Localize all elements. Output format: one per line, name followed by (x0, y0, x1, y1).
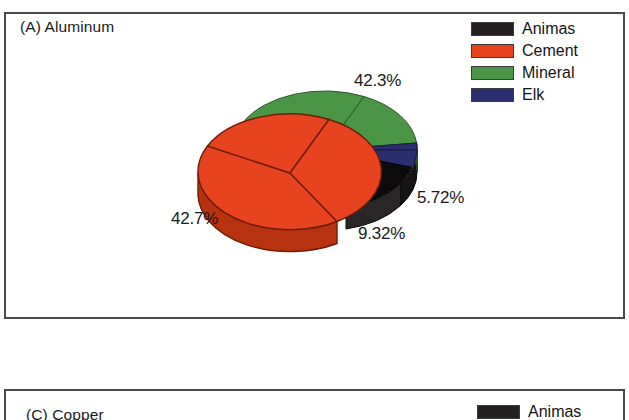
pie-value-label-mineral: 42.3% (354, 71, 401, 91)
panel-copper: (C) Copper Animas (4, 389, 625, 420)
legend-label-elk: Elk (522, 86, 544, 104)
legend-aluminum: Animas Cement Mineral Elk (471, 19, 578, 105)
pie-chart-aluminum (150, 55, 480, 270)
legend-copper: Animas (477, 402, 581, 420)
legend-swatch-animas-copper (477, 405, 520, 419)
legend-swatch-animas (471, 22, 514, 36)
legend-label-mineral: Mineral (522, 64, 574, 82)
legend-item-animas: Animas (471, 19, 578, 39)
pie-value-label-animas: 9.32% (358, 224, 405, 244)
legend-label-animas: Animas (522, 20, 575, 38)
pie-value-label-elk: 5.72% (417, 188, 464, 208)
legend-item-cement: Cement (471, 41, 578, 61)
legend-label-animas-copper: Animas (528, 403, 581, 420)
pie-value-label-cement: 42.7% (171, 209, 218, 229)
legend-item-mineral: Mineral (471, 63, 578, 83)
legend-item-elk: Elk (471, 85, 578, 105)
legend-item-animas-copper: Animas (477, 402, 581, 420)
page-title-copper: (C) Copper (26, 406, 104, 420)
page-title: (A) Aluminum (20, 18, 114, 36)
legend-label-cement: Cement (522, 42, 578, 60)
